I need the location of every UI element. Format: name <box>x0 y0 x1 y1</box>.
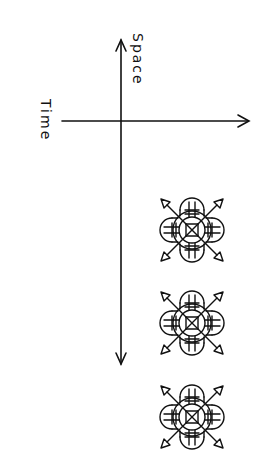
mandala-glyph-icon <box>160 291 224 355</box>
mandala-glyph-icon <box>160 198 224 262</box>
space-axis <box>116 40 126 364</box>
space-axis-label: Space <box>130 33 146 86</box>
mandala-glyph-icon <box>160 385 224 449</box>
time-axis-label: Time <box>38 99 54 141</box>
time-axis <box>62 115 249 127</box>
